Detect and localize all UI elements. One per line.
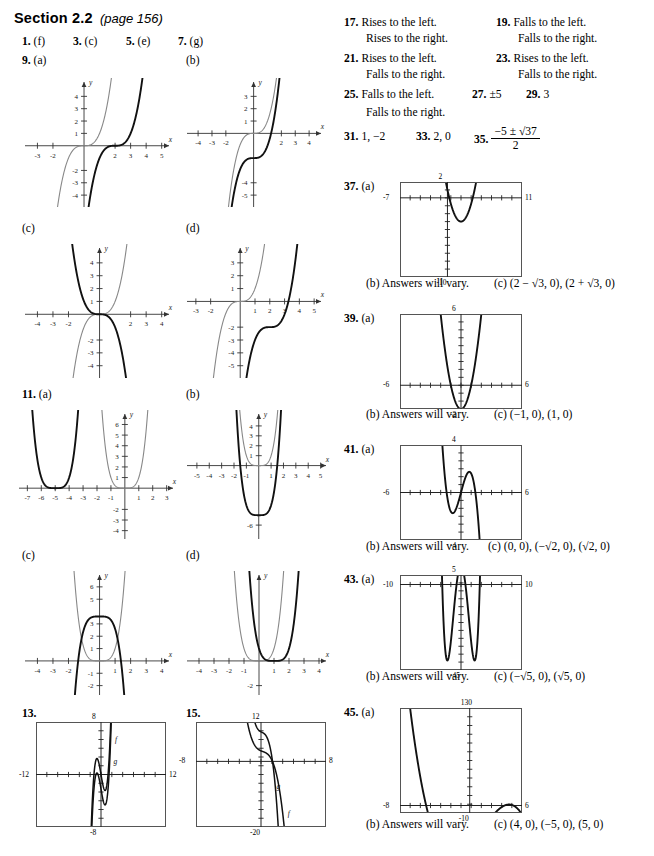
svg-text:-4: -4	[196, 667, 202, 675]
svg-text:2: 2	[90, 633, 94, 641]
axis-label-bottom: -10	[459, 814, 469, 823]
svg-text:3: 3	[249, 432, 253, 440]
graph-43: 5-45-1010	[400, 575, 522, 670]
svg-text:-3: -3	[50, 667, 56, 675]
svg-text:-1: -1	[88, 670, 94, 678]
svg-text:-3: -3	[193, 307, 199, 315]
svg-text:4: 4	[75, 93, 79, 101]
svg-text:5: 5	[115, 432, 119, 440]
svg-text:-2: -2	[226, 667, 232, 675]
axis-label-left: -7	[383, 193, 389, 202]
svg-text:-2: -2	[247, 682, 253, 690]
problem-9-part-b: (b)	[186, 54, 200, 67]
answer-key-page: Section 2.2 (page 156) 1. (f) 3. (c) 5. …	[0, 0, 654, 856]
svg-text:y: y	[263, 410, 268, 419]
svg-text:2: 2	[113, 152, 117, 160]
graph-11d: -4-3-2-11234-2xy	[180, 565, 335, 705]
axis-label-bottom: -8	[90, 828, 96, 837]
svg-text:-6: -6	[247, 522, 253, 530]
svg-text:4: 4	[90, 259, 94, 267]
problem-11-part-d: (d)	[186, 549, 200, 562]
answer-45-b: (b) Answers will vary.	[366, 818, 469, 831]
svg-text:y: y	[258, 78, 263, 87]
axis-label-bottom: -2	[450, 410, 456, 419]
svg-text:1: 1	[137, 494, 141, 502]
svg-text:5: 5	[90, 596, 94, 604]
axis-label-top: 130	[461, 698, 472, 707]
graph-41: 4-4-66	[400, 445, 522, 540]
chart-g13: fg	[36, 722, 166, 827]
graph-11b: -5-4-3-2-112345-61234xy	[180, 404, 335, 549]
answer-1: 1. (f)	[22, 35, 45, 48]
svg-text:2: 2	[282, 472, 286, 480]
svg-text:-1: -1	[108, 494, 114, 502]
svg-text:-2: -2	[228, 324, 234, 332]
problem-41-number: 41. (a)	[344, 443, 374, 456]
problem-11-part-b: (b)	[186, 388, 200, 401]
axis-label-top: 2	[438, 172, 442, 181]
chart-g11d: -4-3-2-11234-2xy	[180, 565, 335, 705]
problem-9-number: 9. (a)	[22, 54, 46, 67]
chart-g39	[400, 314, 522, 409]
answer-41-c: (c) (0, 0), (−√2, 0), (√2, 0)	[488, 540, 610, 553]
chart-g11b: -5-4-3-2-112345-61234xy	[180, 404, 335, 549]
answer-23-line2: Falls to the right.	[518, 68, 597, 81]
svg-text:-5: -5	[52, 494, 58, 502]
svg-text:-2: -2	[208, 307, 214, 315]
svg-text:-4: -4	[206, 472, 212, 480]
svg-text:y: y	[104, 244, 109, 253]
svg-text:-2: -2	[72, 167, 78, 175]
answer-33: 33. 2, 0	[416, 130, 451, 143]
svg-text:-4: -4	[88, 362, 94, 370]
svg-text:-1: -1	[241, 667, 247, 675]
svg-text:4: 4	[160, 667, 164, 675]
graph-13: fg8-8-1212	[36, 722, 166, 827]
svg-text:y: y	[244, 244, 249, 253]
svg-text:-5: -5	[194, 472, 200, 480]
axis-label-right: 6	[525, 801, 529, 810]
page-reference: (page 156)	[100, 11, 163, 26]
svg-text:x: x	[320, 122, 325, 131]
svg-text:-7: -7	[24, 494, 30, 502]
svg-text:-2: -2	[94, 494, 100, 502]
axis-label-left: -12	[19, 770, 29, 779]
svg-text:y: y	[129, 410, 134, 419]
chart-g15: gf	[196, 722, 326, 827]
svg-text:3: 3	[129, 152, 133, 160]
axis-label-top: 12	[252, 712, 260, 721]
svg-text:1: 1	[115, 474, 119, 482]
problem-45-number: 45. (a)	[344, 706, 374, 719]
answer-21-line1: 21. Rises to the left.	[344, 52, 437, 65]
svg-text:-5: -5	[228, 362, 234, 370]
svg-text:-3: -3	[88, 349, 94, 357]
svg-text:3: 3	[115, 453, 119, 461]
graph-37: 2-10-711	[400, 182, 522, 277]
chart-g9c: -4-3-2234-4-3-21234xy	[18, 238, 178, 388]
svg-text:2: 2	[90, 285, 94, 293]
svg-text:2: 2	[280, 139, 284, 147]
svg-text:-3: -3	[228, 337, 234, 345]
graph-11c: -4-3-21234-1-212356xy	[18, 565, 178, 705]
svg-text:-2: -2	[223, 139, 229, 147]
svg-text:3: 3	[144, 320, 148, 328]
svg-text:2: 2	[244, 105, 248, 113]
answer-25-line2: Falls to the right.	[366, 106, 445, 119]
svg-text:-3: -3	[211, 667, 217, 675]
answer-21-line2: Falls to the right.	[366, 68, 445, 81]
axis-label-left: -8	[383, 801, 389, 810]
svg-text:6: 6	[90, 583, 94, 591]
svg-text:3: 3	[244, 93, 248, 101]
svg-text:-4: -4	[35, 320, 41, 328]
svg-text:-4: -4	[242, 179, 248, 187]
chart-g43	[400, 575, 522, 670]
svg-text:x: x	[325, 455, 330, 464]
svg-text:-2: -2	[66, 667, 72, 675]
svg-text:-4: -4	[113, 527, 119, 535]
answer-27: 27. ±5	[472, 88, 502, 101]
svg-text:1: 1	[269, 472, 273, 480]
axis-label-left: -6	[383, 380, 389, 389]
graph-9b: -4-3-2234-5-4123xy	[180, 72, 330, 217]
graph-39: 6-2-66	[400, 314, 522, 409]
svg-text:g: g	[276, 782, 280, 791]
axis-label-left: -10	[383, 580, 393, 589]
